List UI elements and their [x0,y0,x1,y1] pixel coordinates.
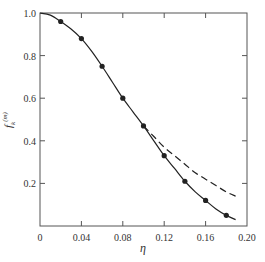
y-axis-label-sub: k [9,121,17,125]
x-tick-label: 0.16 [197,232,215,243]
y-tick-label: 0.2 [24,178,37,189]
y-tick-label: 0.4 [24,136,37,147]
x-tick-label: 0.12 [155,232,173,243]
data-point [141,123,146,128]
x-tick-label: 0.20 [238,232,256,243]
data-point [120,96,125,101]
y-tick-label: 0.8 [24,51,37,62]
x-tick-label: 0 [38,232,43,243]
plot-area: 00.040.080.120.160.200.20.40.60.81.0 [24,8,256,243]
x-tick-label: 0.08 [114,232,132,243]
data-point [203,198,208,203]
y-tick-label: 1.0 [24,8,37,19]
data-point [224,213,229,218]
data-point [100,64,105,69]
x-axis-label: η [140,241,146,255]
data-point [182,179,187,184]
y-tick-label: 0.6 [24,93,37,104]
x-tick-label: 0.04 [73,232,91,243]
data-point [58,19,63,24]
plot-frame [40,13,247,226]
y-axis-label-sup: (m) [1,111,9,121]
solid-curve [40,13,236,220]
chart: 00.040.080.120.160.200.20.40.60.81.0 η f… [0,0,265,262]
y-axis-label: fk(m) [1,111,17,128]
data-point [162,153,167,158]
data-point [79,36,84,41]
